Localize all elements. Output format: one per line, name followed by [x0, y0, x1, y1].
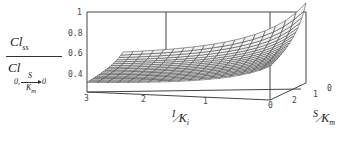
- y-tick: 2: [292, 96, 297, 105]
- z-tick: 0.8: [68, 29, 82, 38]
- x-axis: [87, 92, 270, 100]
- z-tick: 0.6: [68, 49, 82, 58]
- surface-mesh: [87, 3, 306, 83]
- x-tick: 2: [141, 95, 146, 104]
- x-tick: 3: [84, 94, 89, 103]
- y-axis: [270, 83, 306, 100]
- x-axis-label: I/Ki: [172, 108, 189, 127]
- z-tick: 1: [77, 8, 82, 17]
- box-edge-floor: [87, 89, 301, 92]
- y-tick: 0: [327, 84, 332, 93]
- x-tick: 1: [203, 97, 208, 106]
- y-tick: 1: [313, 90, 318, 99]
- z-tick: 0.4: [68, 70, 82, 79]
- x-tick: 0: [268, 101, 273, 110]
- y-axis-label: S/Km: [313, 108, 335, 127]
